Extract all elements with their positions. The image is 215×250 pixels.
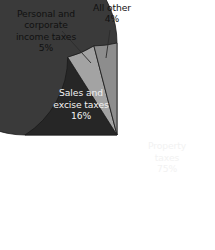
slice-label-value: 4% — [78, 13, 146, 24]
slice-label-sales-and-excise-taxes: Sales and excise taxes 16% — [38, 87, 124, 122]
slice-label-line: All other — [78, 2, 146, 13]
slice-label-line: taxes — [133, 152, 201, 164]
slice-label-property-taxes: Property taxes 75% — [133, 140, 201, 175]
slice-label-value: 16% — [38, 110, 124, 122]
slice-label-all-other: All other 4% — [78, 2, 146, 25]
slice-label-line: income taxes — [0, 31, 92, 42]
slice-label-line: excise taxes — [38, 99, 124, 111]
pie-chart: Personal and corporate income taxes 5% A… — [0, 0, 215, 250]
slice-label-value: 75% — [133, 163, 201, 175]
slice-label-line: Sales and — [38, 87, 124, 99]
slice-label-value: 5% — [0, 42, 92, 53]
slice-label-line: Property — [133, 140, 201, 152]
